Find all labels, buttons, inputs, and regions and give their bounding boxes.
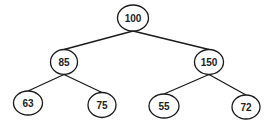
edge-85-63 <box>28 75 64 92</box>
edge-150-55 <box>164 75 209 95</box>
edge-100-150 <box>133 31 209 50</box>
edge-100-85 <box>64 31 133 50</box>
tree-node-85: 85 <box>51 50 78 75</box>
node-label: 72 <box>240 102 252 113</box>
node-label: 100 <box>125 13 142 24</box>
tree-diagram: 1008515063755572 <box>0 0 273 127</box>
edge-150-72 <box>209 75 246 96</box>
node-label: 75 <box>96 100 108 111</box>
tree-node-75: 75 <box>88 93 116 118</box>
node-label: 55 <box>158 101 170 112</box>
edge-85-75 <box>64 75 102 93</box>
tree-node-150: 150 <box>195 50 224 75</box>
node-label: 63 <box>22 98 34 109</box>
tree-node-63: 63 <box>14 91 43 115</box>
tree-node-72: 72 <box>232 95 260 119</box>
tree-node-55: 55 <box>149 94 179 118</box>
tree-node-100: 100 <box>118 5 149 31</box>
tree-nodes: 1008515063755572 <box>14 5 261 119</box>
node-label: 85 <box>58 57 70 68</box>
node-label: 150 <box>201 57 218 68</box>
